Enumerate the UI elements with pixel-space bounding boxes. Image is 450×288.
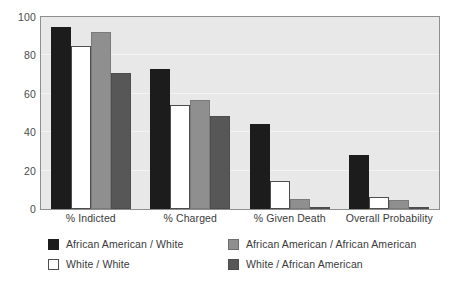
legend-swatch-icon (228, 259, 239, 270)
legend-item[interactable]: African American / White (48, 236, 183, 252)
legend-label: White / African American (246, 258, 363, 270)
bar (51, 27, 71, 209)
bar-group (41, 17, 141, 209)
legend-item[interactable]: White / White (48, 256, 130, 272)
y-axis-tick-label: 40 (24, 126, 36, 138)
y-axis-tick-label: 20 (24, 165, 36, 177)
y-axis-tick-label: 0 (30, 203, 36, 215)
legend-swatch-icon (228, 239, 239, 250)
bar-chart: 020406080100 % Indicted% Charged% Given … (0, 0, 450, 288)
legend-label: African American / African American (246, 238, 416, 250)
legend-item[interactable]: White / African American (228, 256, 363, 272)
x-axis-tick-label: % Indicted (66, 212, 116, 224)
bar (190, 100, 210, 209)
legend-swatch-icon (48, 259, 59, 270)
bar (409, 207, 429, 209)
y-axis-tick-label: 60 (24, 88, 36, 100)
bar-group (340, 17, 440, 209)
y-axis-tick-label: 80 (24, 49, 36, 61)
x-axis-tick-label: Overall Probability (346, 212, 433, 224)
y-axis-tick-label: 100 (18, 11, 36, 23)
bar (71, 46, 91, 209)
bar (290, 199, 310, 209)
x-axis-tick-label: % Given Death (254, 212, 326, 224)
bar (389, 200, 409, 209)
bar (349, 155, 369, 209)
bar (310, 207, 330, 209)
bars-layer (41, 17, 439, 209)
bar (170, 105, 190, 209)
bar (150, 69, 170, 209)
legend-label: African American / White (66, 238, 183, 250)
bar-group (240, 17, 340, 209)
bar (210, 116, 230, 209)
bar (91, 32, 111, 209)
bar (369, 197, 389, 209)
legend-swatch-icon (48, 239, 59, 250)
bar (111, 73, 131, 209)
legend: African American / WhiteAfrican American… (48, 236, 438, 276)
bar (270, 181, 290, 209)
x-axis-tick-label: % Charged (164, 212, 217, 224)
y-axis: 020406080100 (0, 16, 36, 210)
bar-group (141, 17, 241, 209)
x-axis: % Indicted% Charged% Given DeathOverall … (40, 212, 440, 228)
legend-item[interactable]: African American / African American (228, 236, 416, 252)
bar (250, 124, 270, 209)
legend-label: White / White (66, 258, 130, 270)
